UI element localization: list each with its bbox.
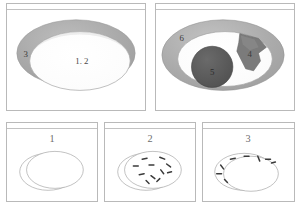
panel-top-right-illustration: 6 4 5 (156, 10, 294, 110)
panel-top-left-illustration: 3 1. 2 (7, 10, 145, 110)
label-nodule-5: 5 (210, 67, 215, 77)
panel-bottom-1: 1 (6, 122, 98, 202)
label-plaque-4: 4 (247, 49, 252, 59)
panel-bottom-3-illustration: 3 (203, 129, 294, 201)
panel-top-left: 3 1. 2 (6, 3, 146, 111)
panel-bottom-2-caption: 2 (147, 133, 152, 144)
panel-body: 3 1. 2 (7, 10, 145, 110)
label-rim-3: 3 (24, 49, 29, 59)
panel-body: 3 (203, 129, 294, 201)
panel-body: 6 4 5 (156, 10, 294, 110)
panel-bottom-1-illustration: 1 (7, 129, 97, 201)
figure-root: 3 1. 2 (0, 0, 301, 206)
panel-bottom-3: 3 (202, 122, 295, 202)
panel-bottom-2: 2 (104, 122, 196, 202)
schematic-lumen-ellipse (27, 151, 84, 188)
panel-body: 2 (105, 129, 195, 201)
label-rim-6: 6 (179, 33, 184, 43)
schematic-lumen-ellipse (125, 151, 182, 188)
panel-bottom-3-caption: 3 (245, 133, 250, 144)
panel-bottom-2-illustration: 2 (105, 129, 195, 201)
panel-body: 1 (7, 129, 97, 201)
label-lumen-1-2: 1. 2 (75, 56, 88, 66)
schematic-lumen-ellipse (224, 156, 279, 191)
panel-bottom-1-caption: 1 (49, 133, 54, 144)
panel-top-right: 6 4 5 (155, 3, 295, 111)
